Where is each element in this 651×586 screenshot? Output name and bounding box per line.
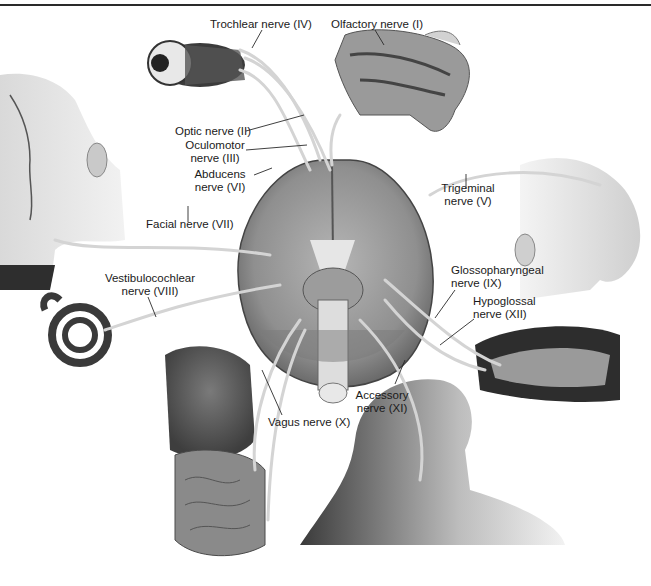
label-vagus-nerve: Vagus nerve (X) [268,416,350,429]
label-text: nerve (XI) [352,402,412,415]
label-text: nerve (XII) [473,308,536,321]
label-text: nerve (IX) [451,277,544,290]
left-face [0,74,125,290]
label-text: nerve (III) [180,152,250,165]
label-trigeminal-nerve: Trigeminal nerve (V) [436,182,500,208]
label-accessory-nerve: Accessory nerve (XI) [352,389,412,415]
label-abducens-nerve: Abducens nerve (VI) [190,168,250,194]
label-text: nerve (VI) [190,181,250,194]
label-text: Oculomotor [180,139,250,152]
label-text: Facial nerve (VII) [146,218,234,230]
label-text: Vestibulocochlear [98,272,202,285]
label-text: Accessory [352,389,412,402]
thoracic-abdominal-organs [165,346,265,555]
label-text: Hypoglossal [473,295,536,308]
brain-inferior [238,160,433,403]
label-text: nerve (V) [436,195,500,208]
label-olfactory-nerve: Olfactory nerve (I) [331,18,423,31]
inner-ear [44,296,108,363]
label-hypoglossal-nerve: Hypoglossal nerve (XII) [473,295,536,321]
label-trochlear-nerve: Trochlear nerve (IV) [210,18,312,31]
label-vestibulocochlear-nerve: Vestibulocochlear nerve (VIII) [98,272,202,298]
label-text: Glossopharyngeal [451,264,544,277]
label-optic-nerve: Optic nerve (II) [175,125,251,138]
nasal-cavity [335,30,469,132]
label-text: nerve (VIII) [98,285,202,298]
label-text: Olfactory nerve (I) [331,18,423,30]
label-facial-nerve: Facial nerve (VII) [146,218,234,231]
label-text: Trochlear nerve (IV) [210,18,312,30]
label-text: Abducens [190,168,250,181]
label-text: Vagus nerve (X) [268,416,350,428]
label-text: Optic nerve (II) [175,125,251,137]
label-text: Trigeminal [436,182,500,195]
label-glossopharyngeal-nerve: Glossopharyngeal nerve (IX) [451,264,544,290]
label-oculomotor-nerve: Oculomotor nerve (III) [180,139,250,165]
neck-shoulder [300,379,565,545]
eyeball [148,41,245,87]
